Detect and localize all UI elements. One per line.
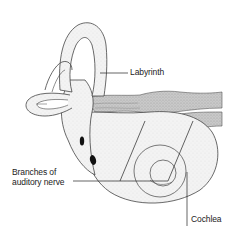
label-labyrinth: Labyrinth bbox=[130, 67, 164, 77]
cochlea-shape bbox=[84, 112, 217, 203]
label-branches-auditory-nerve: Branches of auditory nerve bbox=[12, 167, 64, 187]
inner-ear-diagram bbox=[0, 0, 233, 241]
label-branches-line2: auditory nerve bbox=[12, 177, 64, 187]
label-cochlea: Cochlea bbox=[191, 214, 222, 224]
label-branches-line1: Branches of bbox=[12, 167, 64, 177]
oval-window-mark bbox=[80, 137, 84, 146]
